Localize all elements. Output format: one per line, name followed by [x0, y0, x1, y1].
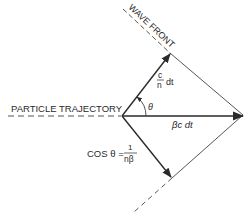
light-vector-dt: dt: [166, 77, 174, 87]
theta-angle-arc: [137, 97, 146, 116]
cos-equation-lhs: COS θ =: [87, 148, 124, 159]
cherenkov-diagram: WAVE FRONT PARTICLE TRAJECTORY θ c n dt …: [0, 0, 251, 221]
cos-equation-denominator: nβ: [124, 154, 134, 164]
light-vector-denominator: n: [157, 80, 162, 90]
particle-vector-label: βc dt: [171, 119, 193, 130]
particle-trajectory-label: PARTICLE TRAJECTORY: [11, 103, 123, 114]
light-vector-numerator: c: [158, 70, 163, 80]
theta-label: θ: [148, 102, 153, 112]
wave-front-lower-dashed-line: [134, 178, 172, 212]
cos-equation-numerator: 1: [128, 143, 133, 152]
wave-front-upper-line: [170, 53, 243, 115]
wave-front-label: WAVE FRONT: [127, 2, 177, 50]
light-vector-upper-arrow: [122, 54, 170, 116]
